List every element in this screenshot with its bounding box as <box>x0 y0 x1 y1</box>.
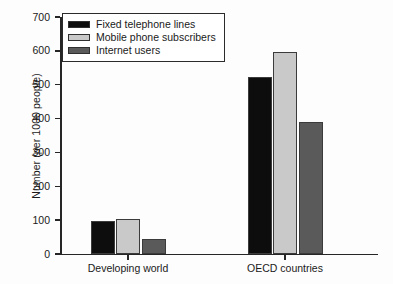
y-tick-label: 200 <box>18 181 50 192</box>
y-tick-mark <box>55 253 60 254</box>
y-tick-label-text: 0 <box>20 249 50 260</box>
legend-swatch-mobile-phone-subscribers <box>68 34 90 41</box>
y-tick-mark <box>55 50 60 51</box>
y-tick-label-text: 600 <box>20 45 50 56</box>
y-tick-mark <box>55 219 60 220</box>
y-axis-label: Number (per 1000 people) <box>30 36 42 236</box>
legend-item: Mobile phone subscribers <box>68 31 216 44</box>
legend-label-mobile-phone-subscribers: Mobile phone subscribers <box>96 32 216 43</box>
legend-item: Fixed telephone lines <box>68 18 216 31</box>
x-tick-mark <box>127 255 128 260</box>
x-tick-mark <box>284 255 285 260</box>
y-tick-label-text: 100 <box>20 215 50 226</box>
y-tick-mark <box>55 186 60 187</box>
y-tick-label-text: 400 <box>20 113 50 124</box>
y-tick-label-text: 300 <box>20 147 50 158</box>
y-tick-mark <box>55 16 60 17</box>
bar <box>142 239 166 254</box>
chart-legend: Fixed telephone lines Mobile phone subsc… <box>62 13 225 62</box>
y-tick-label-text: 700 <box>20 12 50 23</box>
y-tick-label-text: 200 <box>20 181 50 192</box>
legend-label-fixed-telephone-lines: Fixed telephone lines <box>96 19 195 30</box>
y-tick-mark <box>55 84 60 85</box>
y-tick-label: 600 <box>18 45 50 56</box>
bar <box>91 221 115 254</box>
x-category-label: OECD countries <box>247 262 323 274</box>
legend-swatch-internet-users <box>68 47 90 54</box>
y-tick-label-text: 500 <box>20 79 50 90</box>
bar-chart: Number (per 1000 people) 010020030040050… <box>0 0 393 284</box>
y-tick-mark <box>55 152 60 153</box>
bar <box>116 219 140 254</box>
bar <box>248 77 272 254</box>
legend-label-internet-users: Internet users <box>96 45 160 56</box>
bar <box>273 52 297 254</box>
legend-item: Internet users <box>68 44 216 57</box>
y-tick-label: 300 <box>18 147 50 158</box>
y-tick-label: 500 <box>18 79 50 90</box>
legend-swatch-fixed-telephone-lines <box>68 21 90 28</box>
y-tick-label: 0 <box>18 249 50 260</box>
y-tick-mark <box>55 118 60 119</box>
bar <box>299 122 323 254</box>
x-category-label: Developing world <box>88 262 169 274</box>
y-tick-label: 400 <box>18 113 50 124</box>
y-tick-label: 100 <box>18 215 50 226</box>
y-tick-label: 700 <box>18 12 50 23</box>
